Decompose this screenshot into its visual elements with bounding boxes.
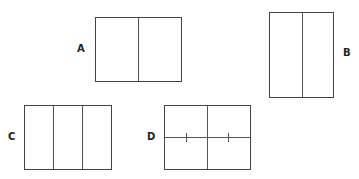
figure-a-vertical-divider bbox=[138, 18, 139, 81]
figure-a-box bbox=[95, 17, 182, 82]
figure-d-box bbox=[164, 105, 251, 170]
figure-a-label: A bbox=[77, 44, 85, 54]
figure-c-divider-1 bbox=[53, 106, 54, 169]
figure-c-label: C bbox=[8, 132, 15, 142]
figure-b-box bbox=[269, 12, 334, 98]
figure-d-horizontal-divider bbox=[165, 137, 250, 138]
figure-b-label: B bbox=[343, 48, 351, 58]
figure-b-vertical-divider bbox=[302, 13, 303, 97]
figure-d-tick-right bbox=[228, 133, 229, 142]
figure-d-tick-left bbox=[186, 133, 187, 142]
figure-c-box bbox=[24, 105, 112, 170]
figure-c-divider-2 bbox=[82, 106, 83, 169]
figure-d-label: D bbox=[147, 132, 155, 142]
